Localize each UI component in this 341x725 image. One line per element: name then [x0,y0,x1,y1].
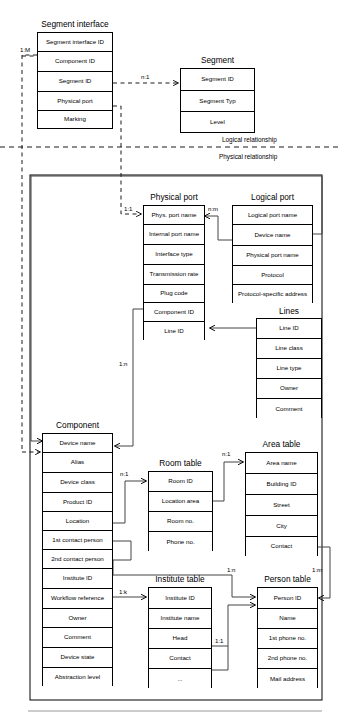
attribute-row: Line type [257,359,321,379]
attribute-row: 1st contact person [43,531,112,550]
attribute-row: Physical port [38,92,112,111]
attribute-row: Building ID [246,474,317,495]
attribute-row: Device name [233,225,312,246]
attribute-row: Phone no. [149,532,212,552]
attribute-row: Location area [149,492,212,512]
attribute-row: Protocol-specific address [233,285,312,304]
attribute-row: Street [246,495,317,516]
attribute-row: Head [149,629,211,649]
attribute-row: Phys. port name [144,206,204,225]
entity-title-logical-port: Logical port [232,192,313,202]
cardinality-room-area: n:1 [222,450,230,457]
attribute-row: Workflow reference [43,589,112,609]
attribute-row: Device class [43,473,112,493]
component-room-connector [113,481,146,523]
entity-component[interactable]: Device name Alias Device class Product I… [42,433,113,686]
attribute-row: Contact [149,649,211,669]
cardinality-physport-logport: n:m [208,205,218,212]
entity-segment-interface[interactable]: Segment interface ID Component ID Segmen… [37,32,113,129]
cardinality-segiface-segment: n:1 [141,73,149,80]
cardinality-component-room: n:1 [120,470,128,477]
cardinality-area-person: 1:m [312,566,322,573]
segiface-component-dashed [22,55,37,452]
attribute-row: Internal port name [144,225,204,245]
attribute-row: Component ID [38,52,112,72]
cardinality-segiface-physport: 1:1 [124,205,132,212]
attribute-row: Segment ID [181,69,254,91]
attribute-row: Interface type [144,245,204,265]
attribute-row: ... [149,669,211,689]
attribute-row: Area name [246,453,317,474]
attribute-row: Component ID [144,303,204,322]
attribute-row: Institute ID [43,569,112,589]
entity-area-table[interactable]: Area name Building ID Street City Contac… [245,452,318,556]
er-diagram-canvas: Logical relationship Physical relationsh… [0,0,341,725]
cardinality-segiface-component: 1:M [20,46,30,53]
entity-segment[interactable]: Segment ID Segment Typ Level [180,68,255,133]
entity-room-table[interactable]: Room ID Location area Room no. Phone no. [148,471,213,551]
cardinality-component-person: 1:n [227,566,235,573]
attribute-row: Physical port name [233,246,312,266]
attribute-row: Device name [43,434,112,453]
attribute-row: Segment interface ID [38,33,112,52]
attribute-row: City [246,516,317,537]
attribute-row: Line ID [144,322,204,341]
room-area-connector [213,462,243,501]
entity-title-area-table: Area table [245,439,318,449]
attribute-row: Owner [43,609,112,628]
physport-logport-connector [205,216,232,240]
attribute-row: Product ID [43,493,112,512]
entity-title-lines: Lines [256,306,322,316]
attribute-row: Owner [257,379,321,399]
entity-title-component: Component [42,420,113,430]
attribute-row: Device state [43,648,112,668]
attribute-row: Line ID [257,319,321,339]
institute-person-connector [212,646,228,670]
attribute-row: Room ID [149,472,212,492]
logical-relationship-label: Logical relationship [222,136,277,143]
attribute-row: Marking [38,111,112,128]
entity-title-room-table: Room table [148,458,213,468]
entity-title-segment-interface: Segment interface [37,19,113,29]
attribute-row: Institute ID [149,588,211,609]
attribute-row: Mail address [258,669,317,689]
attribute-row: Contact [246,537,317,556]
attribute-row: Transmission rate [144,265,204,285]
attribute-row: Plug code [144,285,204,303]
entity-logical-port[interactable]: Logical port name Device name Physical p… [232,205,313,303]
institute-person-arrow [228,605,255,646]
cardinality-institute-person: 1:1 [215,637,223,644]
attribute-row: Line class [257,339,321,359]
entity-lines[interactable]: Line ID Line class Line type Owner Comme… [256,318,322,418]
attribute-row: Level [181,112,254,132]
entity-title-segment: Segment [180,55,255,65]
attribute-row: Segment ID [38,72,112,92]
attribute-row: Person ID [258,588,317,609]
attribute-row: Location [43,512,112,531]
cardinality-component-institute: 1:k [119,588,127,595]
entity-title-person-table: Person table [257,574,318,584]
attribute-row: Logical port name [233,206,312,225]
attribute-row: 2nd contact person [43,550,112,569]
attribute-row: Institute name [149,609,211,629]
attribute-row: Protocol [233,266,312,285]
attribute-row: Name [258,609,317,629]
cardinality-physport-component: 1:n [119,360,127,367]
physport-component-1n [115,309,143,446]
attribute-row: Comment [43,628,112,648]
entity-title-institute-table: Institute table [148,574,212,584]
attribute-row: 2nd phone no. [258,649,317,669]
entity-person-table[interactable]: Person ID Name 1st phone no. 2nd phone n… [257,587,318,688]
segiface-physport-dashed [113,106,141,214]
attribute-row: Segment Typ [181,91,254,112]
entity-institute-table[interactable]: Institute ID Institute name Head Contact… [148,587,212,688]
attribute-row: Room no. [149,512,212,532]
attribute-row: Abstraction level [43,668,112,687]
entity-title-physical-port: Physical port [143,192,205,202]
attribute-row: Comment [257,399,321,419]
entity-physical-port[interactable]: Phys. port name Internal port name Inter… [143,205,205,340]
attribute-row: Alias [43,453,112,473]
physical-relationship-label: Physical relationship [219,153,277,160]
attribute-row: 1st phone no. [258,629,317,649]
